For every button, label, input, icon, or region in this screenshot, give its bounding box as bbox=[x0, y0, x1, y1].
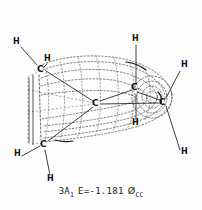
bond-c-center-farright bbox=[101, 103, 159, 104]
atom-label-c-far-right: C bbox=[159, 98, 166, 107]
atom-label-h-upper-left: H bbox=[13, 38, 20, 46]
atom-label-c-lower-left: C bbox=[40, 140, 47, 149]
atom-label-h-right-lower: H bbox=[181, 148, 188, 156]
caption-state-term: 3A bbox=[59, 186, 70, 196]
atom-label-h-center-lower: H bbox=[132, 119, 139, 127]
atom-label-c-center: C bbox=[92, 99, 99, 108]
atom-label-h-upper-inner: H bbox=[44, 55, 51, 63]
bond-c-upperleft-center bbox=[46, 71, 93, 101]
bond-h-lower-left bbox=[22, 146, 40, 156]
atom-label-h-bottom: H bbox=[47, 175, 54, 183]
bond-h-upper-left bbox=[21, 47, 37, 65]
bond-c-upperleft-lowerleft bbox=[39, 75, 41, 140]
atom-label-c-upper-left: C bbox=[37, 65, 44, 74]
bond-h-right-lower bbox=[166, 106, 180, 150]
molecule-drawing bbox=[0, 0, 202, 210]
atom-label-c-right-mid: C bbox=[131, 83, 138, 92]
figure-caption: 3A1E=-1.181ØCC bbox=[0, 185, 202, 199]
caption-state-subscript: 1 bbox=[70, 191, 74, 199]
atom-label-h-top-right: H bbox=[132, 35, 139, 43]
caption-energy-label: E=-1.181 bbox=[78, 186, 124, 196]
caption-unit-subscript: CC bbox=[136, 191, 144, 199]
atom-label-h-right-upper: H bbox=[181, 61, 188, 69]
caption-unit-symbol: Ø bbox=[128, 185, 136, 196]
skeleton-left-frame bbox=[29, 75, 33, 145]
molecular-orbital-figure: H H C H H C C C H H C H H 3A1E=-1.181ØCC bbox=[0, 0, 202, 210]
atom-label-h-lower-left: H bbox=[14, 150, 21, 158]
bond-h-bottom bbox=[45, 150, 50, 175]
bond-c-center-lowerleft bbox=[48, 107, 93, 141]
